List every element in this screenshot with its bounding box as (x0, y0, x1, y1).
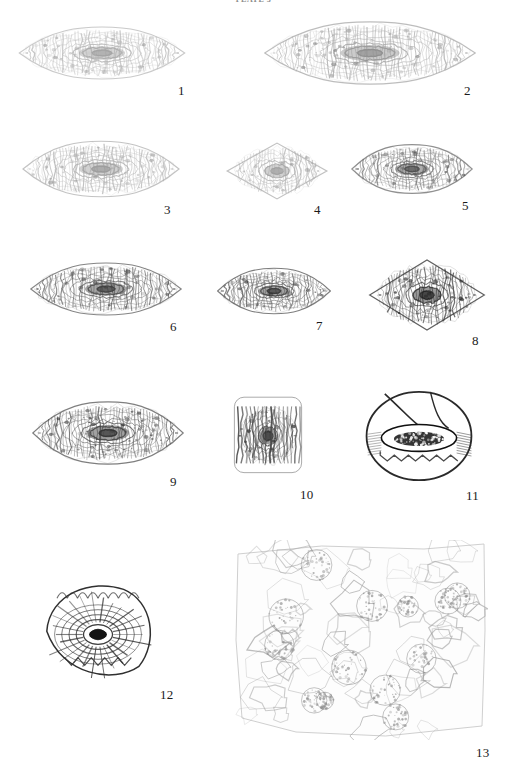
figure-number-label-10: 10 (300, 488, 314, 501)
figure-number-label-2: 2 (464, 84, 471, 97)
figure-number-label-7: 7 (316, 319, 323, 332)
figure-number-label-4: 4 (314, 203, 321, 216)
specimen-image-13 (232, 540, 488, 740)
specimen-figure-9 (28, 396, 188, 470)
specimen-figure-6 (26, 258, 186, 320)
specimen-image-12 (34, 574, 162, 684)
figure-number-label-9: 9 (170, 475, 177, 488)
specimen-image-2 (258, 16, 482, 90)
specimen-figure-2 (258, 16, 482, 90)
specimen-figure-12 (34, 574, 162, 684)
specimen-figure-5 (348, 140, 476, 198)
specimen-image-11 (362, 388, 476, 484)
figure-number-label-13: 13 (476, 746, 490, 759)
figure-number-label-12: 12 (160, 688, 174, 701)
specimen-image-10 (228, 388, 308, 480)
specimen-figure-13 (232, 540, 488, 740)
specimen-image-1 (14, 22, 190, 84)
figure-number-label-1: 1 (178, 84, 185, 97)
specimen-image-7 (214, 264, 334, 318)
specimen-image-9 (28, 396, 188, 470)
specimen-image-8 (366, 256, 488, 334)
specimen-figure-7 (214, 264, 334, 318)
specimen-figure-10 (228, 388, 308, 480)
specimen-figure-8 (366, 256, 488, 334)
figure-number-label-5: 5 (462, 199, 469, 212)
specimen-figure-4 (224, 140, 330, 202)
figure-number-label-6: 6 (170, 320, 177, 333)
specimen-figure-11 (362, 388, 476, 484)
figure-number-label-8: 8 (472, 334, 479, 347)
specimen-figure-3 (18, 136, 184, 202)
photomicrograph-plate: PLATE 3 12345678910111213 (0, 0, 507, 774)
specimen-figure-1 (14, 22, 190, 84)
specimen-image-6 (26, 258, 186, 320)
plate-title: PLATE 3 (0, 0, 507, 4)
figure-number-label-3: 3 (164, 203, 171, 216)
specimen-image-3 (18, 136, 184, 202)
specimen-image-4 (224, 140, 330, 202)
specimen-image-5 (348, 140, 476, 198)
figure-number-label-11: 11 (466, 489, 479, 502)
